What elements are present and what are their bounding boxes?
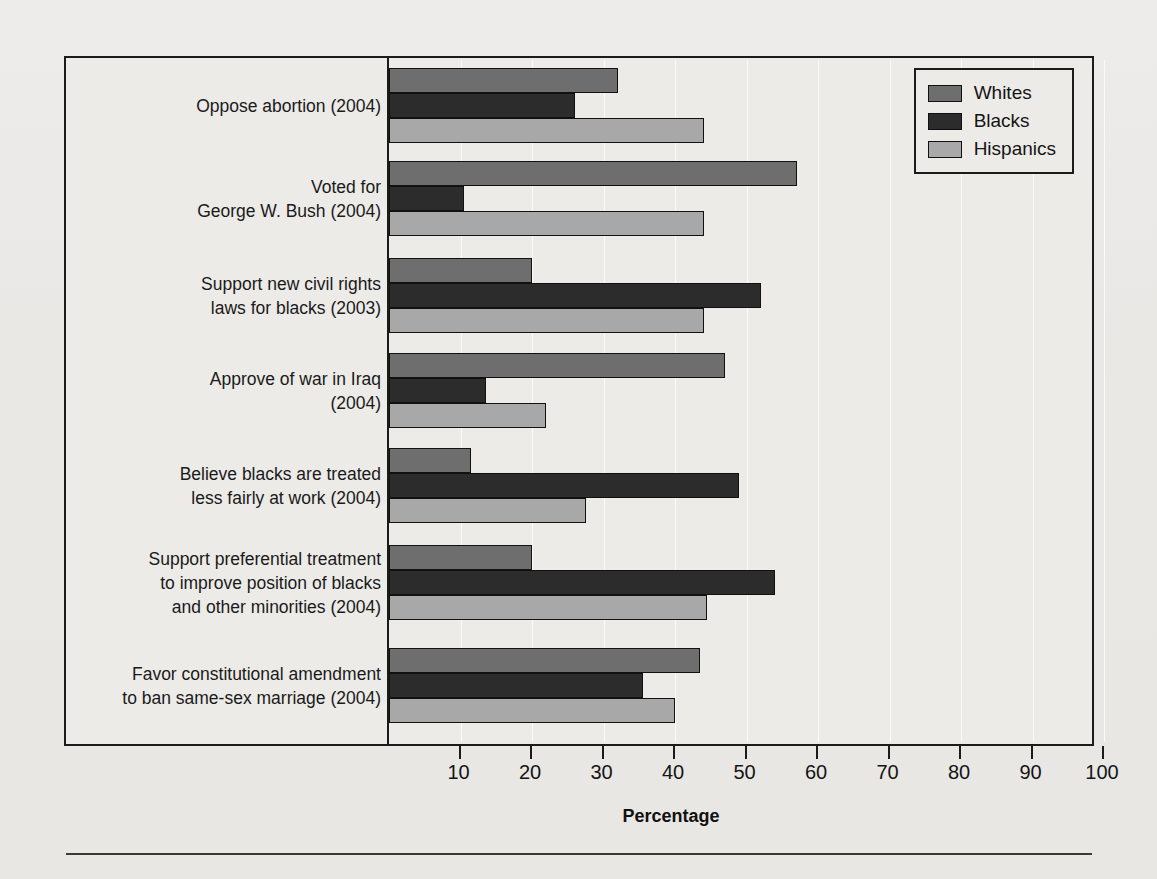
bar-blacks[interactable] (389, 283, 761, 308)
bar-stack (389, 68, 704, 143)
x-tick-label: 90 (1019, 761, 1041, 784)
category-label: Voted for George W. Bush (2004) (81, 175, 381, 223)
bottom-rule (66, 853, 1092, 855)
bar-blacks[interactable] (389, 186, 464, 211)
legend-label: Hispanics (974, 138, 1056, 160)
legend-item-whites[interactable]: Whites (928, 79, 1056, 107)
bar-blacks[interactable] (389, 473, 739, 498)
x-tick-label: 40 (662, 761, 684, 784)
bar-stack (389, 258, 761, 333)
gridline (1104, 60, 1105, 742)
bar-hispanics[interactable] (389, 698, 675, 723)
category-label: Favor constitutional amendment to ban sa… (81, 662, 381, 710)
bar-stack (389, 448, 739, 523)
bar-whites[interactable] (389, 545, 532, 570)
x-tick (1031, 746, 1033, 759)
bar-hispanics[interactable] (389, 498, 586, 523)
x-tick-label: 70 (876, 761, 898, 784)
bar-blacks[interactable] (389, 93, 575, 118)
x-tick-label: 80 (948, 761, 970, 784)
bar-whites[interactable] (389, 68, 618, 93)
legend-swatch-icon (928, 85, 962, 102)
x-tick (888, 746, 890, 759)
x-tick (459, 746, 461, 759)
category-label: Believe blacks are treated less fairly a… (81, 462, 381, 510)
bar-whites[interactable] (389, 448, 471, 473)
legend-item-blacks[interactable]: Blacks (928, 107, 1056, 135)
bar-whites[interactable] (389, 161, 797, 186)
legend-label: Blacks (974, 110, 1030, 132)
x-tick (530, 746, 532, 759)
x-tick-label: 10 (447, 761, 469, 784)
gridline (818, 60, 819, 742)
legend-swatch-icon (928, 113, 962, 130)
x-tick-label: 30 (590, 761, 612, 784)
x-axis-title: Percentage (64, 806, 1094, 827)
legend-item-hispanics[interactable]: Hispanics (928, 135, 1056, 163)
x-tick (816, 746, 818, 759)
chart-figure-frame: Oppose abortion (2004)Voted for George W… (64, 56, 1094, 746)
gridline (890, 60, 891, 742)
chart-legend: WhitesBlacksHispanics (914, 68, 1074, 174)
x-tick-label: 60 (805, 761, 827, 784)
x-tick-label: 100 (1085, 761, 1118, 784)
bar-hispanics[interactable] (389, 308, 704, 333)
category-label: Support preferential treatment to improv… (81, 547, 381, 619)
category-label: Oppose abortion (2004) (81, 94, 381, 118)
category-label: Approve of war in Iraq (2004) (81, 367, 381, 415)
x-tick-label: 20 (519, 761, 541, 784)
bar-hispanics[interactable] (389, 403, 546, 428)
bar-stack (389, 648, 700, 723)
bar-hispanics[interactable] (389, 211, 704, 236)
x-axis-title-text: Percentage (622, 806, 719, 826)
bar-stack (389, 161, 797, 236)
bar-blacks[interactable] (389, 673, 643, 698)
bar-stack (389, 545, 775, 620)
legend-label: Whites (974, 82, 1032, 104)
bar-whites[interactable] (389, 258, 532, 283)
bar-whites[interactable] (389, 353, 725, 378)
legend-swatch-icon (928, 141, 962, 158)
bar-blacks[interactable] (389, 378, 486, 403)
x-tick (602, 746, 604, 759)
x-tick-label: 50 (733, 761, 755, 784)
bar-blacks[interactable] (389, 570, 775, 595)
bar-whites[interactable] (389, 648, 700, 673)
category-label: Support new civil rights laws for blacks… (81, 272, 381, 320)
bar-hispanics[interactable] (389, 595, 707, 620)
x-tick (673, 746, 675, 759)
x-tick (745, 746, 747, 759)
x-tick (1102, 746, 1104, 759)
bar-stack (389, 353, 725, 428)
x-tick (959, 746, 961, 759)
bar-hispanics[interactable] (389, 118, 704, 143)
